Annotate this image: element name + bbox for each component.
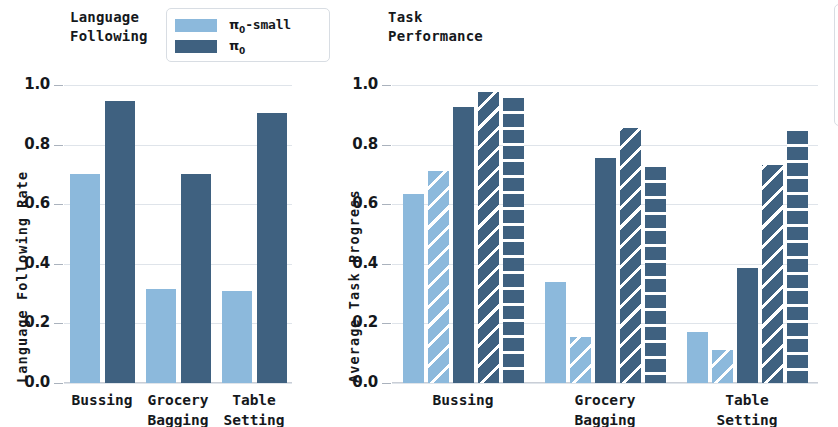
panel-language-following: Language Following Language Following Ra… [0, 0, 340, 427]
y-tick-label: 0.4 [332, 254, 378, 272]
legend-swatch [175, 40, 217, 53]
bar-hatch-horizontal [787, 131, 808, 383]
bar-hatch-horizontal [645, 167, 666, 383]
y-tick-mark [54, 204, 63, 205]
y-tick-mark [54, 145, 63, 146]
y-tick-label: 0.6 [332, 194, 378, 212]
bar [403, 194, 424, 383]
y-tick-label: 0.8 [332, 135, 378, 153]
bar [645, 167, 666, 383]
y-tick-mark [54, 323, 63, 324]
plot-area-right [392, 70, 818, 383]
x-tick-label: Table Setting [676, 390, 818, 427]
gridline [392, 85, 818, 86]
legend-right: π0-small-flatπ0-Humanπ0-small-Humanπ0-HL… [834, 4, 838, 126]
y-tick-label: 1.0 [4, 75, 50, 93]
y-tick-mark [382, 264, 391, 265]
y-tick-mark [54, 383, 63, 384]
bar-fill [105, 101, 135, 383]
bar-fill [595, 158, 616, 383]
bar [478, 92, 499, 383]
y-tick-label: 0.6 [4, 194, 50, 212]
panel-title-left: Language Following [70, 8, 148, 46]
bar-fill [257, 113, 287, 383]
bar-fill [181, 174, 211, 383]
legend-entry: π0 [175, 36, 321, 57]
bar-fill [545, 282, 566, 383]
legend-label: π0 [229, 38, 245, 56]
pi-zero-symbol: π0 [229, 38, 245, 53]
bar [737, 268, 758, 383]
x-tick-label: Grocery Bagging [534, 390, 676, 427]
bar-hatch-diagonal [712, 350, 733, 383]
y-tick-mark [382, 383, 391, 384]
bar-hatch-diagonal [570, 337, 591, 383]
y-tick-label: 0.0 [4, 373, 50, 391]
figure-root: Language Following Language Following Ra… [0, 0, 838, 427]
y-tick-label: 0.8 [4, 135, 50, 153]
y-tick-label: 0.0 [332, 373, 378, 391]
bar [595, 158, 616, 383]
bar-fill [222, 291, 252, 383]
bar-hatch-diagonal [428, 171, 449, 383]
y-tick-mark [382, 85, 391, 86]
legend-swatch [175, 19, 217, 32]
bar [146, 289, 176, 383]
bar-fill [687, 332, 708, 383]
bar [70, 174, 100, 383]
gridline [64, 85, 292, 86]
y-tick-label: 0.2 [4, 313, 50, 331]
bar [545, 282, 566, 383]
bar [453, 107, 474, 383]
bar-fill [70, 174, 100, 383]
bar [181, 174, 211, 383]
bar-hatch-horizontal [503, 98, 524, 383]
panel-title-right: Task Performance [388, 8, 483, 46]
bar [222, 291, 252, 383]
bar [762, 165, 783, 383]
y-tick-mark [54, 264, 63, 265]
bar [712, 350, 733, 383]
bar [620, 128, 641, 383]
bar [105, 101, 135, 383]
x-tick-label: Bussing [64, 390, 140, 410]
y-tick-label: 0.4 [4, 254, 50, 272]
gridline [64, 383, 292, 384]
bar [687, 332, 708, 383]
legend-left: π0-smallπ0 [166, 8, 330, 62]
y-tick-label: 1.0 [332, 75, 378, 93]
x-tick-label: Table Setting [216, 390, 292, 427]
y-tick-mark [54, 85, 63, 86]
bar-fill [453, 107, 474, 383]
bar-hatch-diagonal [478, 92, 499, 383]
bar [570, 337, 591, 383]
bar-hatch-diagonal [620, 128, 641, 383]
bar-fill [403, 194, 424, 383]
bar-hatch-diagonal [762, 165, 783, 383]
plot-area-left [64, 70, 292, 383]
y-tick-label: 0.2 [332, 313, 378, 331]
y-tick-mark [382, 204, 391, 205]
bar [257, 113, 287, 383]
bar [787, 131, 808, 383]
bar-fill [146, 289, 176, 383]
y-tick-mark [382, 323, 391, 324]
pi-zero-symbol: π0 [229, 17, 245, 32]
legend-entry: π0-small [175, 15, 321, 36]
y-axis-label-right: Average Task Progress [346, 189, 362, 383]
y-tick-mark [382, 145, 391, 146]
gridline [392, 383, 818, 384]
legend-label: π0-small [229, 17, 291, 35]
x-tick-label: Bussing [392, 390, 534, 410]
bar [503, 98, 524, 383]
x-tick-label: Grocery Bagging [140, 390, 216, 427]
bar [428, 171, 449, 383]
bar-fill [737, 268, 758, 383]
panel-task-performance: Task Performance Average Task Progress π… [340, 0, 838, 427]
